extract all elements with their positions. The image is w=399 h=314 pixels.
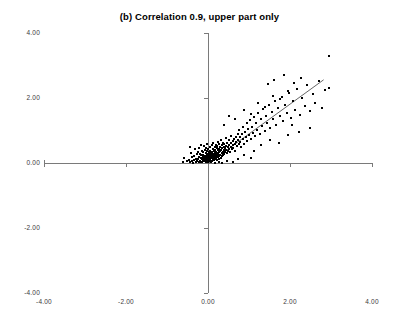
data-point — [267, 83, 269, 85]
data-point — [190, 152, 192, 154]
data-point — [269, 127, 271, 129]
data-point — [242, 126, 244, 128]
data-point — [189, 146, 191, 148]
data-point — [211, 144, 213, 146]
data-point — [265, 115, 267, 117]
data-point — [251, 126, 253, 128]
data-point — [198, 147, 200, 149]
data-point — [292, 100, 294, 102]
data-point — [314, 102, 316, 104]
data-point — [218, 161, 220, 163]
data-point — [235, 136, 237, 138]
data-point — [290, 117, 292, 119]
y-axis-tick-label: 4.00 — [14, 29, 40, 36]
data-point — [309, 127, 311, 129]
data-point — [286, 112, 288, 114]
data-point — [229, 151, 231, 153]
data-point — [318, 80, 320, 82]
data-point — [234, 150, 236, 152]
data-point — [241, 133, 243, 135]
data-point — [293, 82, 295, 84]
data-point — [278, 142, 280, 144]
data-point — [236, 145, 238, 147]
x-axis-tick-label: -4.00 — [28, 298, 60, 305]
data-point — [262, 108, 264, 110]
data-point — [226, 152, 228, 154]
data-point — [225, 137, 227, 139]
data-point — [206, 143, 208, 145]
data-point — [260, 144, 262, 146]
data-point — [328, 55, 330, 57]
data-point — [272, 95, 274, 97]
data-point — [287, 90, 289, 92]
data-point — [234, 118, 236, 120]
data-point — [256, 129, 258, 131]
data-point — [221, 162, 223, 164]
data-point — [220, 157, 222, 159]
data-point — [249, 119, 251, 121]
data-point — [183, 157, 185, 159]
data-point — [230, 135, 232, 137]
data-point — [238, 129, 240, 131]
data-point — [259, 133, 261, 135]
data-point — [244, 131, 246, 133]
data-point — [296, 88, 298, 90]
data-point — [237, 133, 239, 135]
data-point — [298, 131, 300, 133]
data-point — [250, 138, 252, 140]
data-point — [247, 128, 249, 130]
data-point — [277, 107, 279, 109]
data-point — [228, 115, 230, 117]
data-point — [261, 125, 263, 127]
data-point — [243, 154, 245, 156]
data-point — [274, 100, 276, 102]
data-point — [243, 143, 245, 145]
data-point — [253, 150, 255, 152]
data-point — [228, 139, 230, 141]
x-axis-tick-label: -2.00 — [110, 298, 142, 305]
data-point — [250, 157, 252, 159]
data-point — [304, 105, 306, 107]
data-point — [182, 161, 184, 163]
data-point — [257, 102, 259, 104]
data-point — [275, 124, 277, 126]
data-point — [324, 89, 326, 91]
data-point — [272, 118, 274, 120]
data-point — [288, 92, 290, 94]
data-point — [294, 109, 296, 111]
data-point — [279, 115, 281, 117]
data-point — [246, 140, 248, 142]
data-point — [242, 138, 244, 140]
data-point — [299, 114, 301, 116]
data-point — [284, 104, 286, 106]
data-point — [279, 98, 281, 100]
data-point — [248, 134, 250, 136]
data-point — [200, 144, 202, 146]
data-point — [239, 136, 241, 138]
data-point — [309, 110, 311, 112]
data-point — [271, 111, 273, 113]
data-point — [282, 120, 284, 122]
data-point — [283, 74, 285, 76]
y-axis-tick-label: 2.00 — [14, 94, 40, 101]
data-point — [260, 118, 262, 120]
data-point — [239, 141, 241, 143]
data-point — [300, 77, 302, 79]
data-point — [238, 143, 240, 145]
data-point — [240, 146, 242, 148]
data-point — [264, 130, 266, 132]
data-point — [253, 116, 255, 118]
data-point — [269, 139, 271, 141]
data-point — [194, 148, 196, 150]
data-point — [273, 79, 275, 81]
y-axis-tick-label: 0.00 — [14, 159, 40, 166]
y-axis-tick-label: -2.00 — [14, 224, 40, 231]
data-point — [312, 93, 314, 95]
data-point — [232, 161, 234, 163]
data-point — [245, 136, 247, 138]
data-point — [328, 87, 330, 89]
y-axis-tick-label: -4.00 — [14, 289, 40, 296]
data-point — [243, 109, 245, 111]
scatter-plot-figure: (b) Correlation 0.9, upper part only -4.… — [0, 0, 399, 314]
x-axis-tick-label: 4.00 — [356, 298, 388, 305]
